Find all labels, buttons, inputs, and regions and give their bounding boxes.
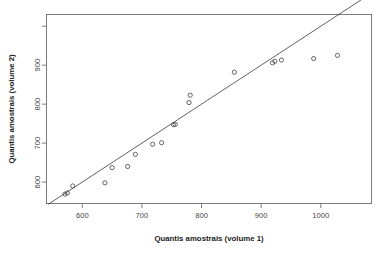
data-point [71,184,75,188]
data-point [103,181,107,185]
plot-canvas: 6007008009001000 600700800900 Quantis am… [0,0,387,254]
plot-frame [47,15,372,204]
x-axis-title: Quantis amostrais (volume 1) [154,234,264,243]
data-point [151,142,155,146]
x-tick-label: 700 [136,211,149,220]
scatter-plot-figure: 6007008009001000 600700800900 Quantis am… [0,0,387,254]
data-point [126,164,130,168]
data-point [188,93,192,97]
x-tick-label: 1000 [312,211,329,220]
data-point [133,152,137,156]
data-point [232,70,236,74]
y-axis-title: Quantis amostrais (volume 2) [7,54,16,164]
x-tick-label: 900 [255,211,268,220]
y-tick-label: 700 [34,137,43,150]
y-tick-label: 800 [34,98,43,111]
data-point [110,166,114,170]
data-point [187,100,191,104]
y-tick-label: 600 [34,176,43,189]
data-point [312,56,316,60]
data-point [335,53,339,57]
y-axis-ticks: 600700800900 [34,26,47,188]
y-tick-label: 900 [34,59,43,72]
data-point [159,141,163,145]
x-tick-label: 800 [195,211,208,220]
data-points-group [63,53,340,196]
data-point [279,58,283,62]
x-axis-ticks: 6007008009001000 [76,204,329,220]
x-tick-label: 600 [76,211,89,220]
identity-reference-line [48,0,369,204]
